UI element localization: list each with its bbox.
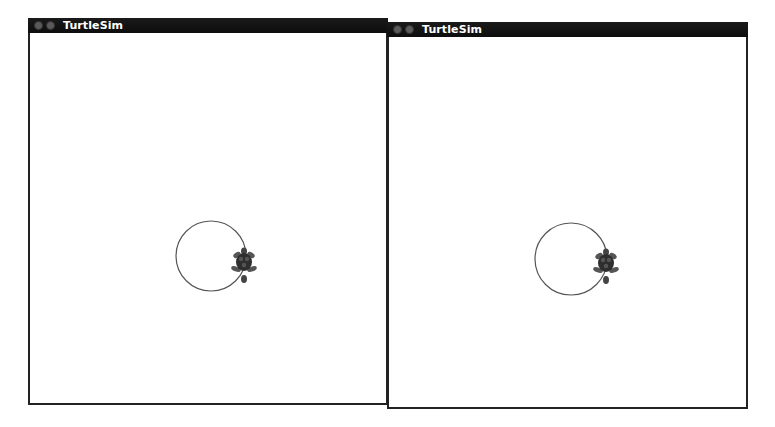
close-button[interactable] (34, 21, 43, 30)
window-title: TurtleSim (422, 23, 482, 36)
turtle-drawing (389, 37, 750, 409)
window-controls (393, 25, 414, 34)
turtle-canvas (28, 33, 388, 405)
turtle-drawing (30, 33, 390, 405)
window-controls (34, 21, 55, 30)
title-bar[interactable]: TurtleSim (28, 18, 388, 33)
minimize-button[interactable] (405, 25, 414, 34)
turtlesim-window-right: TurtleSim (387, 22, 748, 409)
turtle-canvas (387, 37, 748, 409)
turtle-path-circle (535, 223, 607, 295)
title-bar[interactable]: TurtleSim (387, 22, 748, 37)
minimize-button[interactable] (46, 21, 55, 30)
turtle-icon (230, 248, 257, 284)
window-title: TurtleSim (63, 19, 123, 32)
close-button[interactable] (393, 25, 402, 34)
turtlesim-window-left: TurtleSim (28, 18, 388, 405)
turtle-icon (592, 249, 619, 285)
